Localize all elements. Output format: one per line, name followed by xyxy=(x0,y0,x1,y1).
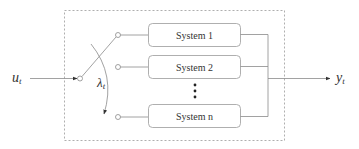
contact-node-1 xyxy=(116,33,121,38)
output-label-y: yt xyxy=(334,70,345,86)
contact-node-2 xyxy=(116,65,121,70)
switch-label-lambda: λt xyxy=(96,75,106,91)
system-block-n: System n xyxy=(149,105,241,128)
ellipsis-dots xyxy=(194,84,197,99)
system-label-2: System 2 xyxy=(176,62,213,73)
system-label-n: System n xyxy=(176,111,213,122)
system-label-1: System 1 xyxy=(176,30,213,41)
system-block-2: System 2 xyxy=(149,56,241,79)
system-block-1: System 1 xyxy=(149,24,241,47)
contact-node-n xyxy=(116,115,121,120)
switched-system-diagram: System 1 System 2 System n ut yt λt xyxy=(0,0,359,149)
switch-pivot-node xyxy=(78,76,83,81)
switch-arm xyxy=(82,37,116,77)
input-label-u: ut xyxy=(12,70,22,86)
